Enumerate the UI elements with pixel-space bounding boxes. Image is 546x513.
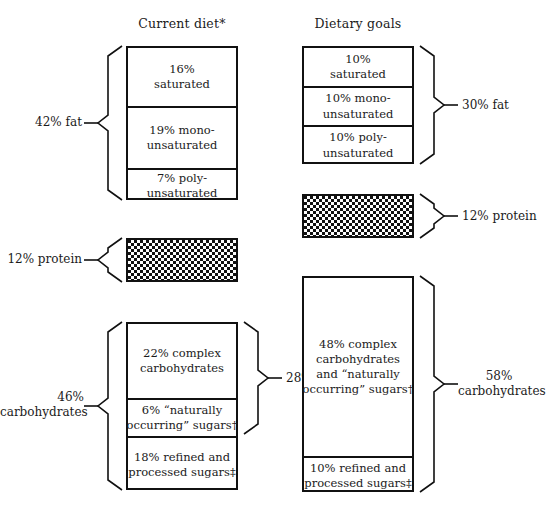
goals-fat-bar: 10% saturated 10% mono- unsaturated 10% … bbox=[302, 46, 414, 164]
segment-line-2: unsaturated bbox=[147, 138, 218, 153]
segment-line-2: unsaturated bbox=[323, 146, 394, 161]
goals-carbohydrates-bar: 48% complex carbohydrates and “naturally… bbox=[302, 276, 414, 492]
current-carbohydrates-bar: 22% complex carbohydrates 6% “naturally … bbox=[126, 322, 238, 490]
segment-line-1: 7% poly- bbox=[157, 171, 207, 186]
bracket-label-line-1: 58% bbox=[458, 369, 540, 384]
current-fat-saturated-segment: 16% saturated bbox=[128, 48, 236, 106]
bracket-label-line-2: carbohydrates bbox=[458, 384, 540, 399]
current-protein-bracket-label: 12% protein bbox=[2, 252, 82, 267]
current-fat-monounsaturated-segment: 19% mono- unsaturated bbox=[128, 106, 236, 168]
segment-line-1: 19% mono- bbox=[149, 123, 214, 138]
current-fat-bar: 16% saturated 19% mono- unsaturated 7% p… bbox=[126, 46, 238, 200]
column-title-dietary-goals: Dietary goals bbox=[302, 16, 414, 31]
segment-line-3: and “naturally bbox=[316, 367, 400, 382]
current-carb-refined-sugars-segment: 18% refined and processed sugars‡ bbox=[128, 436, 236, 492]
current-carbohydrates-28-bracket bbox=[242, 320, 272, 438]
segment-line-1: 10% refined and bbox=[310, 461, 406, 476]
goals-fat-bracket bbox=[418, 44, 448, 166]
segment-line-2: saturated bbox=[154, 77, 210, 92]
segment-line-2: carbohydrates bbox=[316, 352, 400, 367]
current-carb-natural-sugars-segment: 6% “naturally occurring” sugars† bbox=[128, 398, 236, 436]
current-protein-box bbox=[126, 238, 238, 282]
current-fat-bracket-label: 42% fat bbox=[4, 115, 82, 130]
current-fat-polyunsaturated-segment: 7% poly- unsaturated bbox=[128, 168, 236, 202]
current-carb-complex-segment: 22% complex carbohydrates bbox=[128, 324, 236, 398]
goals-protein-bracket-label: 12% protein bbox=[462, 209, 542, 224]
goals-fat-monounsaturated-segment: 10% mono- unsaturated bbox=[304, 86, 412, 125]
current-carbohydrates-bracket-label: 46% carbohydrates bbox=[0, 390, 84, 421]
segment-line-2: processed sugars‡ bbox=[304, 476, 411, 491]
current-protein-bracket bbox=[96, 236, 126, 284]
goals-fat-bracket-label: 30% fat bbox=[462, 98, 540, 113]
goals-protein-bracket bbox=[418, 192, 448, 240]
segment-line-2: carbohydrates bbox=[140, 361, 224, 376]
segment-line-2: saturated bbox=[330, 67, 386, 82]
goals-protein-box bbox=[302, 194, 414, 238]
segment-line-1: 10% bbox=[345, 52, 371, 67]
segment-line-1: 6% “naturally bbox=[142, 403, 222, 418]
segment-line-4: occurring” sugars† bbox=[303, 382, 414, 397]
bracket-label-line-2: carbohydrates bbox=[0, 405, 84, 420]
segment-line-2: unsaturated bbox=[323, 107, 394, 122]
column-title-current-diet: Current diet* bbox=[126, 16, 238, 31]
segment-line-2: unsaturated bbox=[147, 186, 218, 201]
segment-line-1: 48% complex bbox=[319, 337, 397, 352]
goals-carbohydrates-bracket bbox=[418, 274, 448, 494]
goals-carb-complex-segment: 48% complex carbohydrates and “naturally… bbox=[304, 278, 412, 456]
segment-line-1: 22% complex bbox=[143, 346, 221, 361]
bracket-label-line-1: 46% bbox=[0, 390, 84, 405]
segment-line-2: occurring” sugars† bbox=[127, 418, 238, 433]
current-fat-bracket bbox=[96, 44, 126, 202]
segment-line-1: 16% bbox=[169, 62, 195, 77]
segment-line-2: processed sugars‡ bbox=[128, 465, 235, 480]
goals-fat-polyunsaturated-segment: 10% poly- unsaturated bbox=[304, 125, 412, 164]
segment-line-1: 10% poly- bbox=[329, 130, 387, 145]
segment-line-1: 10% mono- bbox=[325, 91, 390, 106]
segment-line-1: 18% refined and bbox=[134, 450, 230, 465]
current-carbohydrates-bracket bbox=[96, 320, 126, 492]
goals-carbohydrates-bracket-label: 58% carbohydrates bbox=[458, 369, 540, 400]
goals-fat-saturated-segment: 10% saturated bbox=[304, 48, 412, 86]
goals-carb-refined-sugars-segment: 10% refined and processed sugars‡ bbox=[304, 456, 412, 494]
